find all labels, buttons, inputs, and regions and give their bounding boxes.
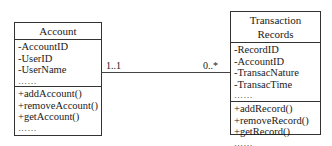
account-attributes: -AccountID -UserID -UserName …… (15, 40, 101, 87)
account-attribute: -UserName (18, 64, 101, 76)
account-method-ellipsis: …… (18, 123, 101, 135)
target-multiplicity: 0..* (203, 60, 218, 71)
transaction-attribute: -RecordID (234, 44, 320, 56)
transaction-attribute: -AccountID (234, 56, 320, 68)
account-attribute: -AccountID (18, 41, 101, 53)
transaction-method: +addRecord() (234, 103, 320, 115)
transaction-method-ellipsis: …… (234, 138, 320, 146)
transaction-methods: +addRecord() +removeRecord() +getRecord(… (231, 102, 320, 146)
transaction-method: +removeRecord() (234, 115, 320, 127)
transaction-attribute: -TransacTime (234, 79, 320, 91)
account-class-box: Account -AccountID -UserID -UserName …… … (14, 22, 102, 136)
account-method: +removeAccount() (18, 100, 101, 112)
transaction-attributes: -RecordID -AccountID -TransacNature -Tra… (231, 43, 320, 102)
transaction-attribute-ellipsis: …… (234, 90, 320, 102)
account-attribute: -UserID (18, 53, 101, 65)
account-class-name: Account (15, 23, 101, 40)
transaction-attribute: -TransacNature (234, 67, 320, 79)
account-methods: +addAccount() +removeAccount() +getAccou… (15, 87, 101, 135)
transaction-class-name: Transaction Records (231, 12, 320, 43)
source-multiplicity: 1..1 (106, 60, 121, 71)
transaction-method: +getRecord() (234, 126, 320, 138)
account-attribute-ellipsis: …… (18, 76, 101, 88)
account-method: +getAccount() (18, 111, 101, 123)
account-method: +addAccount() (18, 88, 101, 100)
transaction-records-class-box: Transaction Records -RecordID -AccountID… (230, 11, 321, 135)
association-line (101, 72, 230, 73)
